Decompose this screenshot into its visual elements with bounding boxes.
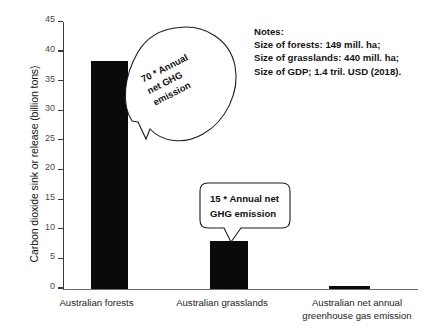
notes-heading: Notes: bbox=[254, 25, 401, 38]
notes-line-1: Size of forests: 149 mill. ha; bbox=[254, 38, 401, 51]
y-tick-0: 0 bbox=[58, 287, 63, 288]
x-label-line-2: greenhouse gas emission bbox=[302, 310, 411, 321]
x-label-australian-net-annual-ghg: Australian net annual greenhouse gas emi… bbox=[293, 296, 421, 322]
x-label-line-1: Australian net annual bbox=[312, 297, 402, 308]
x-label-australian-forests: Australian forests bbox=[44, 296, 149, 309]
grasslands-callout-outline bbox=[200, 183, 290, 242]
y-tick-25: 25 bbox=[58, 139, 63, 140]
y-tick-label-35: 35 bbox=[45, 74, 55, 84]
notes-line-3: Size of GDP; 1.4 tril. USD (2018). bbox=[254, 65, 401, 78]
y-tick-label-25: 25 bbox=[45, 133, 55, 143]
y-axis-line bbox=[63, 22, 64, 290]
forests-callout-bubble bbox=[122, 24, 240, 146]
y-tick-label-0: 0 bbox=[50, 281, 55, 291]
y-tick-label-10: 10 bbox=[45, 222, 55, 232]
chart-figure: Carbon dioxide sink or release (billion … bbox=[0, 0, 426, 333]
x-axis-line bbox=[63, 289, 418, 290]
y-tick-45: 45 bbox=[58, 21, 63, 22]
y-tick-10: 10 bbox=[58, 228, 63, 229]
grasslands-callout-bubble bbox=[199, 182, 291, 244]
y-axis-title: Carbon dioxide sink or release (billion … bbox=[28, 44, 40, 284]
y-tick-label-15: 15 bbox=[45, 192, 55, 202]
x-label-line: Australian forests bbox=[59, 297, 133, 308]
y-tick-30: 30 bbox=[58, 110, 63, 111]
y-tick-15: 15 bbox=[58, 199, 63, 200]
bar-australian-net-annual-ghg bbox=[329, 286, 370, 289]
notes-block: Notes: Size of forests: 149 mill. ha; Si… bbox=[254, 25, 401, 78]
y-tick-40: 40 bbox=[58, 50, 63, 51]
y-tick-35: 35 bbox=[58, 80, 63, 81]
y-tick-5: 5 bbox=[58, 258, 63, 259]
y-tick-label-30: 30 bbox=[45, 103, 55, 113]
y-tick-label-45: 45 bbox=[45, 14, 55, 24]
bar-australian-grasslands bbox=[210, 241, 248, 288]
notes-line-2: Size of grasslands: 440 mill. ha; bbox=[254, 51, 401, 64]
y-tick-label-5: 5 bbox=[50, 251, 55, 261]
x-label-line: Australian grasslands bbox=[176, 297, 268, 308]
x-label-australian-grasslands: Australian grasslands bbox=[160, 296, 284, 309]
forests-callout-outline bbox=[125, 27, 236, 141]
y-tick-20: 20 bbox=[58, 169, 63, 170]
y-tick-label-40: 40 bbox=[45, 44, 55, 54]
y-tick-label-20: 20 bbox=[45, 162, 55, 172]
